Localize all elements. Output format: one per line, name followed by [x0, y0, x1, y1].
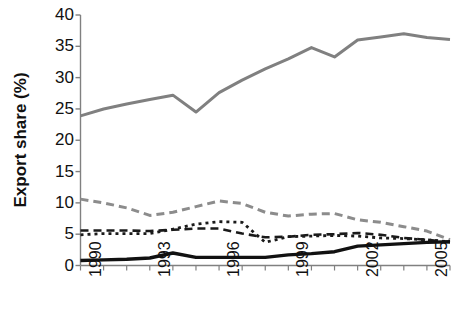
plot-area: [0, 0, 456, 316]
series-3-black-dashed: [81, 229, 451, 243]
series-2-gray-dashed: [81, 199, 451, 240]
series-4-black-dotted: [81, 222, 451, 243]
series-1-gray-solid: [81, 34, 451, 116]
y-axis-ticks: [76, 15, 81, 266]
series-5-black-solid: [81, 242, 451, 261]
chart-container: Export share (%) 0510152025303540 199019…: [0, 0, 456, 316]
x-axis-ticks: [81, 266, 451, 271]
data-series-group: [81, 34, 451, 261]
